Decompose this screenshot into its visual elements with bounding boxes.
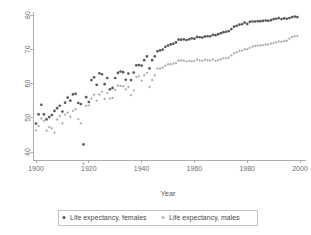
data-point	[222, 31, 225, 34]
data-point	[241, 23, 244, 26]
scatter-plot: 4050607080 190019201940196019802000 Year…	[0, 0, 311, 235]
y-tick-label: 60	[24, 80, 31, 88]
data-point	[185, 60, 188, 63]
data-point	[114, 89, 117, 92]
data-point	[145, 71, 148, 74]
data-point	[180, 38, 183, 41]
data-point	[201, 59, 204, 62]
data-point	[272, 42, 275, 45]
data-point	[188, 59, 191, 62]
data-point	[66, 96, 69, 99]
data-point	[204, 35, 207, 38]
data-point	[267, 19, 270, 22]
data-point	[69, 99, 72, 102]
data-point	[267, 43, 270, 46]
data-point	[153, 74, 156, 77]
data-point	[111, 96, 114, 99]
data-point	[140, 64, 143, 67]
data-point	[156, 50, 159, 53]
data-point	[225, 57, 228, 60]
data-point	[101, 73, 104, 76]
data-point	[90, 79, 93, 82]
data-point	[161, 48, 164, 51]
data-point	[227, 30, 230, 33]
data-point	[77, 102, 80, 105]
data-point	[103, 97, 106, 100]
data-point	[119, 84, 122, 87]
data-point	[93, 76, 96, 79]
data-point	[40, 103, 43, 106]
x-tick-label: 1960	[187, 165, 203, 172]
data-point	[148, 85, 151, 88]
data-point	[275, 17, 278, 20]
data-point	[272, 18, 275, 21]
data-point	[193, 59, 196, 62]
data-point	[169, 43, 172, 46]
data-point	[248, 21, 251, 24]
x-tick-label: 1980	[239, 165, 255, 172]
data-point	[43, 113, 46, 116]
data-point	[204, 58, 207, 61]
data-point	[251, 20, 254, 23]
data-point	[278, 17, 281, 20]
data-point	[37, 113, 40, 116]
chart-legend: Life expectancy, femalesLife expectancy,…	[58, 210, 257, 225]
data-point	[42, 119, 45, 122]
data-point	[277, 40, 280, 43]
data-point	[90, 97, 93, 100]
data-point	[74, 92, 77, 95]
data-point	[198, 59, 201, 62]
data-point	[119, 70, 122, 73]
x-tick-label: 2000	[292, 165, 308, 172]
data-point	[45, 118, 48, 121]
data-point	[243, 21, 246, 24]
data-point	[132, 89, 135, 92]
data-point	[285, 17, 288, 20]
data-point	[122, 85, 125, 88]
data-point	[167, 44, 170, 47]
data-point	[98, 93, 101, 96]
legend-label[interactable]: Life expectancy, females	[70, 214, 147, 222]
data-point	[116, 72, 119, 75]
data-point	[275, 41, 278, 44]
data-point	[146, 55, 149, 58]
data-point	[212, 34, 215, 37]
data-point	[50, 127, 53, 130]
data-point	[164, 46, 167, 49]
data-point	[101, 90, 104, 93]
data-point	[230, 28, 233, 31]
data-point	[48, 116, 51, 119]
chart-figure: 4050607080 190019201940196019802000 Year…	[0, 0, 311, 235]
data-point	[270, 42, 273, 45]
data-point	[180, 59, 183, 62]
data-point	[135, 64, 138, 67]
y-tick-label: 40	[24, 148, 31, 156]
data-point	[259, 44, 262, 47]
data-point	[114, 77, 117, 80]
data-point	[172, 62, 175, 65]
data-point	[72, 109, 75, 112]
data-point	[64, 113, 67, 116]
data-point	[256, 44, 259, 47]
data-point	[56, 118, 59, 121]
y-tick-label: 50	[24, 114, 31, 122]
data-point	[235, 25, 238, 28]
data-points-layer	[35, 15, 299, 165]
x-tick-label: 1940	[134, 165, 150, 172]
data-point	[175, 41, 178, 44]
data-point	[64, 101, 67, 104]
data-point	[296, 16, 299, 19]
data-point	[283, 40, 286, 43]
data-point	[151, 79, 154, 82]
data-point	[206, 35, 209, 38]
data-point	[264, 43, 267, 46]
data-point	[37, 125, 40, 128]
y-tick-label: 70	[24, 45, 31, 53]
data-point	[288, 17, 291, 20]
data-point	[233, 52, 236, 55]
legend-label[interactable]: Life expectancy, males	[169, 214, 240, 222]
data-point	[108, 97, 111, 100]
x-tick-label: 1920	[81, 165, 97, 172]
data-point	[270, 19, 273, 22]
data-point	[35, 129, 38, 132]
